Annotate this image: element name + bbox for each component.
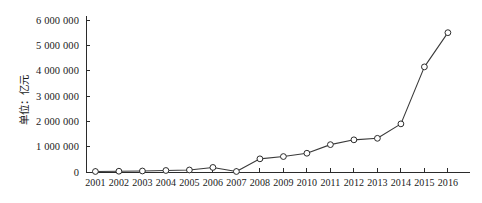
- y-axis-title: 单位：亿元: [18, 74, 30, 125]
- x-tick-label: 2011: [320, 177, 340, 188]
- x-tick-label: 2013: [367, 177, 387, 188]
- x-tick-label: 2015: [414, 177, 434, 188]
- x-tick-label: 2001: [85, 177, 105, 188]
- data-point-marker: [163, 168, 169, 174]
- data-point-marker: [234, 169, 240, 175]
- data-point-marker: [257, 156, 263, 162]
- x-axis-tick-labels: 2001200220032004200520062007200820092010…: [85, 177, 458, 188]
- y-tick-label: 0: [74, 167, 79, 178]
- data-point-marker: [445, 30, 451, 36]
- data-point-marker: [375, 135, 381, 141]
- y-tick-label: 6 000 000: [36, 15, 79, 26]
- y-tick-label: 4 000 000: [36, 65, 79, 76]
- y-tick-label: 5 000 000: [36, 40, 79, 51]
- x-tick-label: 2006: [203, 177, 223, 188]
- x-tick-label: 2003: [132, 177, 152, 188]
- x-tick-label: 2010: [297, 177, 317, 188]
- data-point-marker: [93, 169, 99, 175]
- x-tick-label: 2002: [109, 177, 129, 188]
- data-series-line: [95, 33, 448, 172]
- data-point-marker: [281, 154, 287, 160]
- data-point-marker: [304, 150, 310, 156]
- x-tick-label: 2014: [391, 177, 411, 188]
- data-series-markers: [93, 30, 451, 175]
- y-axis-tick-marks: [86, 20, 90, 172]
- data-point-marker: [210, 165, 216, 171]
- line-chart-canvas: 01 000 0002 000 0003 000 0004 000 0005 0…: [0, 0, 482, 203]
- data-point-marker: [351, 137, 357, 143]
- data-point-marker: [422, 64, 428, 70]
- x-tick-label: 2012: [344, 177, 364, 188]
- x-tick-label: 2009: [273, 177, 293, 188]
- y-axis-tick-labels: 01 000 0002 000 0003 000 0004 000 0005 0…: [36, 15, 79, 178]
- data-point-marker: [187, 167, 193, 173]
- x-tick-label: 2005: [179, 177, 199, 188]
- data-point-marker: [140, 168, 146, 174]
- y-tick-label: 2 000 000: [36, 116, 79, 127]
- x-tick-label: 2016: [438, 177, 458, 188]
- data-point-marker: [116, 168, 122, 174]
- y-tick-label: 3 000 000: [36, 91, 79, 102]
- data-point-marker: [328, 142, 334, 148]
- x-tick-label: 2004: [156, 177, 176, 188]
- data-point-marker: [398, 121, 404, 127]
- chart-figure: 01 000 0002 000 0003 000 0004 000 0005 0…: [0, 0, 482, 203]
- y-tick-label: 1 000 000: [36, 141, 79, 152]
- x-tick-label: 2007: [226, 177, 246, 188]
- x-tick-label: 2008: [250, 177, 270, 188]
